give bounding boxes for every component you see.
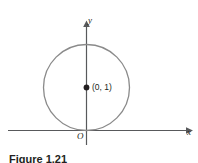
y-axis-label: y [88,16,92,25]
x-axis-label: x [187,128,191,137]
origin-label: O [77,132,84,141]
figure-container: y x O (0, 1) Figure 1.21 [0,0,198,163]
center-point-marker [84,85,90,91]
point-coordinate-label: (0, 1) [92,83,112,92]
figure-caption: Figure 1.21 [9,153,198,163]
